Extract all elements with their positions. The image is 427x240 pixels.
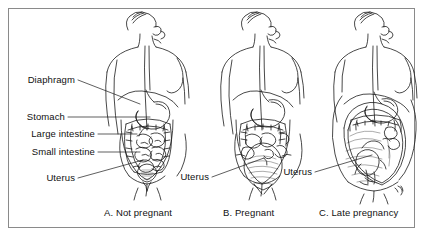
label-uterus-c: Uterus <box>283 167 312 177</box>
label-uterus-b: Uterus <box>180 172 209 182</box>
leader-uterus-c <box>315 155 372 172</box>
label-large-intestine: Large intestine <box>31 129 95 139</box>
caption-panel-c: C. Late pregnancy <box>319 208 398 218</box>
figure-root: Diaphragm Stomach Large intestine Small … <box>0 0 427 240</box>
label-stomach: Stomach <box>27 112 65 122</box>
leader-uterus-a <box>78 160 143 178</box>
label-uterus-a: Uterus <box>46 173 75 183</box>
figure-a-not-pregnant <box>106 12 189 200</box>
caption-panel-a: A. Not pregnant <box>104 208 172 218</box>
figure-c-late-pregnancy <box>332 12 417 204</box>
caption-panel-b: B. Pregnant <box>223 208 274 218</box>
label-small-intestine: Small intestine <box>32 147 95 157</box>
label-diaphragm: Diaphragm <box>28 75 75 85</box>
leader-uterus-b <box>212 158 264 177</box>
